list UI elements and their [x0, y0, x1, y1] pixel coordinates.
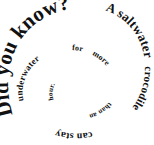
spiral-segment-4-text: can stay — [54, 129, 94, 143]
spiral-segment-8-text: than an — [88, 101, 113, 121]
spiral-segment-2: A saltwater — [104, 0, 154, 59]
spiral-text-canvas: Did you know? A saltwater crocodile can … — [0, 0, 154, 145]
spiral-segment-7: more — [91, 49, 112, 68]
spiral-segment-3-text: crocodile — [130, 66, 154, 113]
spiral-segment-3: crocodile — [130, 66, 154, 113]
spiral-segment-6: for — [72, 43, 84, 54]
spiral-segment-6-text: for — [72, 43, 84, 54]
spiral-segment-9: hour. — [47, 81, 57, 101]
spiral-segment-7-text: more — [91, 49, 112, 68]
spiral-segment-5: underwater — [15, 53, 42, 102]
spiral-segment-9-text: hour. — [47, 81, 57, 101]
spiral-segment-2-text: A saltwater — [104, 0, 154, 59]
spiral-segment-5-text: underwater — [15, 53, 42, 102]
spiral-segment-8: than an — [88, 101, 113, 121]
spiral-text-graphic: Did you know? A saltwater crocodile can … — [0, 0, 154, 145]
spiral-text-group: Did you know? A saltwater crocodile can … — [0, 0, 154, 143]
spiral-segment-4: can stay — [54, 129, 94, 143]
